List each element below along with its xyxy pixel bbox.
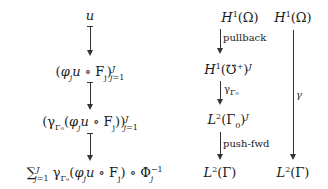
node-global-trace-sum: ∑Jj=1 γΓ₀(φju ∘ Fj) ∘ Φ−1j	[27, 166, 153, 180]
node-H1-Omega-right: H1(Ω)	[274, 11, 311, 25]
node-L2-Gamma0-J: L2(Γ0)J	[207, 113, 248, 127]
pullback-label: pullback	[223, 32, 266, 43]
node-L2-Gamma-right: L2(Γ)	[277, 166, 310, 180]
node-local-traces: (γΓ₀(φju ∘ Fj))Jj=1	[42, 115, 137, 129]
node-H1-Uplus-J: H1(℧+)J	[204, 63, 251, 77]
node-u: u	[86, 9, 94, 23]
push-forward-label: push-fwd	[223, 138, 269, 149]
node-L2-Gamma: L2(Γ)	[204, 166, 237, 180]
trace-gamma-label: γ	[296, 89, 302, 100]
trace-gamma0-label: γΓ₀	[224, 83, 239, 94]
node-H1-Omega: H1(Ω)	[221, 11, 258, 25]
node-local-functions: (φju ∘ Fj)Jj=1	[56, 65, 125, 79]
